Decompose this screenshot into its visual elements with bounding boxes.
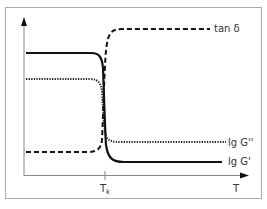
x-axis-label: T xyxy=(232,183,240,194)
tk-label: Tk xyxy=(99,183,111,196)
chart: tan δ lg G'' lg G' T Tk xyxy=(0,0,267,209)
chart-frame xyxy=(6,8,262,199)
curve-tan-delta xyxy=(26,29,210,152)
label-lg-g-double-prime: lg G'' xyxy=(228,137,254,148)
label-lg-g-prime: lg G' xyxy=(228,156,251,167)
x-axis-arrow-icon xyxy=(240,173,249,179)
tk-label-sub: k xyxy=(106,188,111,196)
y-axis-arrow-icon xyxy=(21,17,27,26)
label-tan-delta: tan δ xyxy=(214,23,240,34)
curve-lg-g-prime xyxy=(26,53,222,162)
curve-lg-g-double-prime xyxy=(26,79,226,142)
